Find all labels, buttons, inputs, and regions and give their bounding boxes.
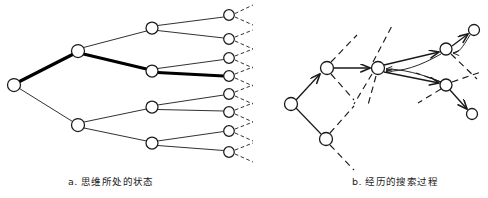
edge-a1-a3 <box>84 31 147 48</box>
visited-node <box>372 62 385 75</box>
state-node <box>8 79 21 92</box>
state-node-leaf <box>224 10 235 21</box>
state-node-leaf <box>224 34 235 45</box>
edge-a6-a13 <box>158 132 224 142</box>
leaf-stub <box>235 30 253 37</box>
edge-a0-a2 <box>20 89 73 122</box>
panel-a-caption: a. 思维所处的状态 <box>68 174 154 188</box>
edge-a2-a5 <box>84 109 147 122</box>
visited-node <box>440 43 452 55</box>
panel-b-plain-edges <box>296 108 321 134</box>
edge-a6-a14 <box>158 146 224 151</box>
panel-b-caption: b. 经历的搜索过程 <box>352 174 438 188</box>
leaf-stub <box>235 143 253 150</box>
visited-node <box>467 109 478 120</box>
leaf-stub <box>235 133 253 141</box>
leaf-stub <box>235 78 253 86</box>
edge-a1-a4-bold <box>84 54 147 69</box>
leaf-stub <box>235 5 253 14</box>
state-node <box>146 65 158 77</box>
visited-node <box>285 98 298 111</box>
edge-a4-a9 <box>158 60 224 69</box>
unexplored-stub <box>368 76 376 105</box>
state-node-leaf <box>224 126 235 137</box>
unexplored-stub <box>331 35 357 62</box>
transition-b3-b4 <box>384 52 439 65</box>
leaf-stub <box>235 49 253 56</box>
leaf-stub <box>235 103 253 110</box>
state-node-leaf <box>224 53 235 64</box>
leaf-stub <box>235 122 253 129</box>
transition-b6-b7 <box>450 90 467 109</box>
leaf-stub <box>235 154 253 162</box>
unexplored-stub <box>330 145 354 170</box>
panel-a-thin-edges <box>20 17 224 151</box>
panel-a-highlight-path <box>20 54 224 82</box>
edge-a5-a12 <box>158 110 224 112</box>
edge-a5-a11 <box>158 95 224 105</box>
state-node <box>146 137 158 149</box>
state-node <box>72 45 85 58</box>
unexplored-stub <box>330 106 354 133</box>
visited-node <box>320 133 333 146</box>
transition-b0-b1 <box>296 74 320 100</box>
panel-b-graph <box>285 24 482 170</box>
state-node <box>146 101 158 113</box>
state-node-leaf <box>224 89 235 100</box>
edge-a3-a7 <box>158 17 224 26</box>
transition-b4-b5 <box>452 34 468 46</box>
panel-a-graph <box>8 5 254 162</box>
visited-node <box>321 62 334 75</box>
leaf-stub <box>235 60 253 68</box>
edge-a0-a1-bold <box>20 55 73 82</box>
leaf-stub <box>235 114 253 122</box>
unexplored-stub <box>418 89 441 103</box>
leaf-stub <box>235 17 253 25</box>
figure-container: a. 思维所处的状态 b. 经历的搜索过程 <box>0 0 488 198</box>
panel-b-dashed-stubs <box>330 24 481 170</box>
leaf-stub <box>235 67 253 74</box>
state-node <box>72 119 85 132</box>
leaf-stub <box>235 96 253 104</box>
state-node <box>146 22 158 34</box>
edge-b0-b2 <box>296 108 321 134</box>
state-node-leaf <box>224 147 235 158</box>
state-node-leaf <box>224 107 235 118</box>
unexplored-stub <box>373 24 393 62</box>
tree-search-figure <box>0 0 488 198</box>
leaf-stub <box>235 85 253 92</box>
edge-a4-a10-bold <box>158 73 224 77</box>
unexplored-stub <box>331 74 354 100</box>
visited-node <box>440 79 452 91</box>
unexplored-stub <box>452 72 481 82</box>
leaf-stub <box>235 41 253 49</box>
visited-node <box>469 25 480 36</box>
edge-a3-a8 <box>158 31 224 39</box>
panel-b-nodes <box>285 25 480 146</box>
state-node-leaf <box>224 71 235 82</box>
edge-a2-a6 <box>84 128 147 141</box>
panel-a-leaf-stubs <box>235 5 253 162</box>
